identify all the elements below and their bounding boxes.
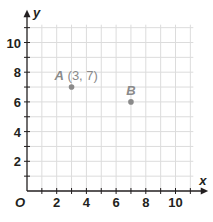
point-label-a: A (3, 7) [54,68,98,83]
grid-lines [27,25,193,191]
x-tick-label: 4 [83,195,91,210]
x-axis-arrow-icon [201,188,208,195]
x-tick-label: 10 [168,195,182,210]
point-b [128,99,134,105]
y-tick-label: 6 [14,95,21,110]
x-axis-label: x [198,173,207,188]
y-axis-arrow-icon [24,10,31,17]
y-tick-label: 2 [14,154,21,169]
point-label-b: B [126,83,135,98]
y-tick-label: 8 [14,65,21,80]
plotted-points: A (3, 7)B [54,68,136,105]
tick-labels: 246810246810 [7,36,183,211]
y-tick-label: 4 [14,125,22,140]
x-tick-label: 2 [53,195,60,210]
x-tick-label: 6 [112,195,119,210]
axis-ticks [24,28,190,194]
point-a [69,84,75,90]
origin-label: O [15,195,25,210]
x-tick-label: 8 [142,195,149,210]
y-tick-label: 10 [7,36,21,51]
y-axis-label: y [32,5,41,20]
coordinate-plane: 246810246810 x y O A (3, 7)B [0,0,213,222]
